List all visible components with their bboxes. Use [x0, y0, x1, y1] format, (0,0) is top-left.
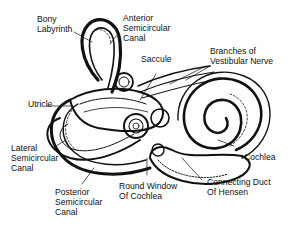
- label-utricle: Utricle: [28, 99, 52, 109]
- label-round-window: Round Window Of Cochlea: [119, 181, 177, 201]
- vestibule: [70, 89, 163, 131]
- cochlea-spiral: [184, 78, 261, 150]
- label-anterior-semicircular-canal: Anterior Semicircular Canal: [123, 13, 170, 43]
- label-branches-vestibular-nerve: Branches of Vestibular Nerve: [210, 46, 273, 66]
- label-saccule: Saccule: [141, 54, 172, 64]
- label-cochlea: Cochlea: [244, 152, 276, 162]
- label-lateral-semicircular-canal: Lateral Semicircular Canal: [11, 143, 58, 173]
- anterior-canal-inner: [90, 28, 115, 88]
- label-bony-labyrinth: Bony Labyrinth: [37, 14, 72, 34]
- label-connecting-duct: Connecting Duct Of Hensen: [207, 177, 271, 197]
- label-posterior-semicircular-canal: Posterior Semicircular Canal: [55, 187, 102, 217]
